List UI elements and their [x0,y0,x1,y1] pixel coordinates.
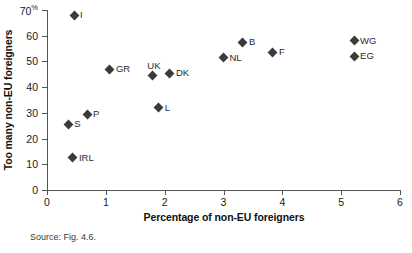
data-point-marker [219,53,229,63]
x-axis-title: Percentage of non-EU foreigners [47,211,401,223]
data-point-marker [105,64,115,74]
source-note: Source: Fig. 4.6. [30,232,96,242]
y-axis-tick [42,10,47,11]
x-axis-tick-label: 0 [35,196,59,208]
data-point-label: I [80,9,83,20]
plot-area: 010203040506070%0123456ISIRLPGRUKLDKNLBF… [47,10,400,190]
data-point-label: NL [230,51,242,62]
data-point-label: F [279,46,285,57]
data-point-label: S [74,118,80,129]
x-axis-tick [165,190,166,195]
data-point-marker [268,47,278,57]
y-axis-tick [42,139,47,140]
y-axis-tick-label: 50 [26,55,38,67]
x-axis-title-text: Percentage of non-EU foreigners [144,211,305,223]
y-axis-tick [42,36,47,37]
data-point-label: IRL [79,151,94,162]
y-axis-tick [42,87,47,88]
y-axis-tick-label: 60 [26,30,38,42]
y-axis-tick [42,113,47,114]
data-point-marker [349,36,359,46]
y-axis-tick [42,61,47,62]
data-point-marker [82,109,92,119]
y-axis-tick-label: 10 [26,158,38,170]
x-axis-tick [400,190,401,195]
y-axis-tick-label: 0 [32,184,38,196]
data-point-marker [63,119,73,129]
x-axis-tick [341,190,342,195]
x-axis-tick [47,190,48,195]
data-point-marker [154,103,164,113]
x-axis-tick-label: 1 [94,196,118,208]
data-point-label: WG [360,34,376,45]
data-point-label: B [249,36,255,47]
data-point-marker [349,51,359,61]
data-point-label: P [93,108,99,119]
data-point-marker [69,10,79,20]
y-axis-tick-label: 40 [26,81,38,93]
data-point-marker [238,37,248,47]
y-axis-tick-label: 20 [26,133,38,145]
data-point-label: DK [176,67,189,78]
x-axis-tick [106,190,107,195]
data-point-label: UK [147,59,160,70]
y-axis-title: Too many non-EU foreigners [0,10,16,190]
y-axis-tick [42,164,47,165]
x-axis-tick [282,190,283,195]
x-axis-tick [224,190,225,195]
data-point-marker [68,153,78,163]
data-point-label: L [165,101,170,112]
y-axis-tick-label: 70% [20,3,38,17]
data-point-marker [165,68,175,78]
y-axis-tick-label: 30 [26,107,38,119]
scatter-chart-figure: Too many non-EU foreigners 0102030405060… [0,0,412,253]
x-axis-tick-label: 5 [329,196,353,208]
x-axis-tick-label: 6 [388,196,412,208]
data-point-label: EG [360,50,374,61]
x-axis-tick-label: 4 [270,196,294,208]
y-axis-title-text: Too many non-EU foreigners [2,30,14,171]
x-axis-tick-label: 2 [153,196,177,208]
data-point-label: GR [116,63,130,74]
y-axis-unit: % [31,3,38,12]
x-axis-tick-label: 3 [212,196,236,208]
data-point-marker [147,71,157,81]
